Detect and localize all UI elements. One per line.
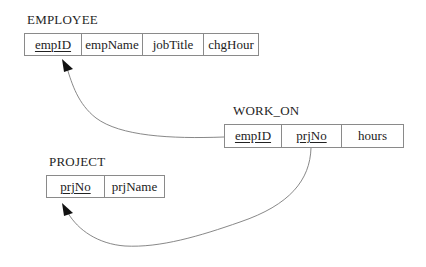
fk-arrow-empid-line	[67, 68, 224, 138]
attr-label: jobTitle	[153, 37, 194, 53]
work-on-attr-hours: hours	[342, 125, 403, 147]
work-on-table: empID prjNo hours	[224, 124, 404, 148]
attr-label: prjNo	[296, 128, 326, 144]
employee-attr-chghour: chgHour	[204, 34, 258, 55]
work-on-attr-prjno: prjNo	[282, 125, 342, 147]
fk-arrow-prjno-head-icon	[62, 203, 73, 216]
employee-attr-empname: empName	[82, 34, 143, 55]
work-on-title: WORK_ON	[233, 104, 299, 118]
project-title: PROJECT	[49, 155, 105, 169]
attr-label: empName	[85, 37, 138, 53]
attr-label: chgHour	[208, 37, 254, 53]
fk-arrow-empid-head-icon	[62, 59, 73, 72]
project-attr-prjno: prjNo	[47, 176, 105, 197]
work-on-attr-empid: empID	[225, 125, 282, 147]
employee-table: empID empName jobTitle chgHour	[24, 33, 259, 56]
employee-attr-empid: empID	[25, 34, 82, 55]
attr-label: prjNo	[60, 179, 90, 195]
employee-title: EMPLOYEE	[27, 13, 98, 27]
attr-label: prjName	[112, 179, 157, 195]
project-table: prjNo prjName	[46, 175, 165, 198]
attr-label: hours	[358, 128, 387, 144]
employee-attr-jobtitle: jobTitle	[143, 34, 204, 55]
attr-label: empID	[235, 128, 271, 144]
project-attr-prjname: prjName	[105, 176, 164, 197]
attr-label: empID	[35, 37, 71, 53]
